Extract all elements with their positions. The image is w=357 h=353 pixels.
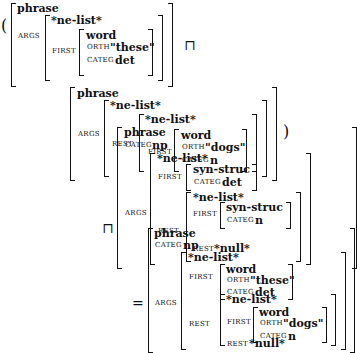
categ-label: CATEG <box>125 142 152 149</box>
bracket-right <box>272 87 277 181</box>
orth-label: ORTH <box>182 144 205 151</box>
bracket-left <box>148 228 153 353</box>
null-value: *null* <box>249 338 285 349</box>
bracket-left <box>174 129 179 172</box>
bracket-left <box>45 15 50 81</box>
categ-value: np <box>152 140 168 151</box>
bracket-right <box>306 153 311 265</box>
op2-type: phrase <box>77 88 119 99</box>
bracket-left <box>117 127 122 269</box>
unify-operator: ⊓ <box>102 221 114 235</box>
op3-type: phrase <box>124 127 166 138</box>
categ-label: CATEG <box>194 179 221 186</box>
op2-first-type: word <box>181 130 211 141</box>
op3-args-label: ARGS <box>125 210 147 217</box>
bracket-left <box>11 3 16 87</box>
bracket-left <box>79 29 84 76</box>
bracket-right <box>296 192 301 262</box>
orth-value: "dogs" <box>205 142 245 153</box>
bracket-right <box>341 252 346 350</box>
categ-label: CATEG <box>155 242 182 249</box>
bracket-right <box>288 264 293 300</box>
close-paren: ) <box>283 124 289 140</box>
syn-struc-type: syn-struc <box>226 202 283 213</box>
bracket-left <box>220 294 225 346</box>
result-args-label: ARGS <box>155 300 177 307</box>
bracket-right <box>252 164 257 191</box>
bracket-right <box>262 100 267 177</box>
orth-label: ORTH <box>260 320 283 327</box>
bracket-right <box>158 15 163 81</box>
op1-args-type: *ne-list* <box>51 15 102 26</box>
orth-label: ORTH <box>87 44 110 51</box>
bracket-right <box>148 29 153 76</box>
categ-value: np <box>183 240 199 251</box>
op1-type: phrase <box>17 3 59 14</box>
op1-first-label: FIRST <box>52 48 76 55</box>
op2-rest-type: *ne-list* <box>145 114 196 125</box>
op2-args-type: *ne-list* <box>110 100 161 111</box>
categ-value: n <box>288 331 296 342</box>
orth-value: "dogs" <box>283 318 323 329</box>
bracket-right <box>331 294 336 346</box>
rest-label: REST <box>189 321 210 328</box>
bracket-right <box>286 202 291 229</box>
result-args-type: *ne-list* <box>188 252 239 263</box>
categ-label: CATEG <box>87 57 114 64</box>
categ-value: n <box>255 215 263 226</box>
bracket-left <box>181 252 186 350</box>
bracket-right <box>168 3 173 87</box>
categ-value: det <box>222 177 242 188</box>
bracket-left <box>70 87 75 181</box>
first-label: FIRST <box>158 174 182 181</box>
categ-value: det <box>115 55 135 66</box>
bracket-left <box>104 100 109 177</box>
first-label: FIRST <box>227 319 251 326</box>
open-paren: ( <box>1 18 7 34</box>
unify-operator: ⊓ <box>184 38 196 52</box>
op2-args-label: ARGS <box>78 131 100 138</box>
result-type: phrase <box>154 228 196 239</box>
bracket-right <box>322 307 327 343</box>
orth-label: ORTH <box>227 277 250 284</box>
equals-operator: = <box>132 296 144 310</box>
op1-first-type: word <box>86 30 116 41</box>
bracket-right <box>350 228 355 353</box>
syn-struc-type: syn-struc <box>193 164 250 175</box>
categ-label: CATEG <box>227 217 254 224</box>
first-label: FIRST <box>189 274 213 281</box>
bracket-left <box>220 202 225 229</box>
op1-args-label: ARGS <box>18 33 40 40</box>
bracket-left <box>186 164 191 191</box>
rest-label: REST <box>227 341 248 348</box>
first-label: FIRST <box>193 211 217 218</box>
rest-type: *ne-list* <box>226 294 277 305</box>
